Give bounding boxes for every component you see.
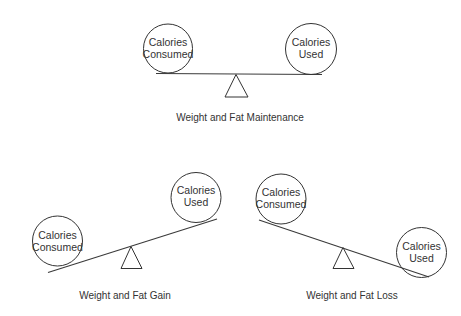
weight-label-line1: Calories — [402, 240, 441, 252]
weight-calories-consumed: Calories Consumed — [32, 216, 83, 266]
weight-calories-consumed: Calories Consumed — [143, 24, 194, 73]
scale-gain: Calories Consumed Calories Used Weight a… — [32, 173, 221, 302]
weight-label-line2: Used — [409, 252, 434, 264]
beam-maintenance — [156, 74, 322, 75]
weight-label-line2: Consumed — [32, 241, 83, 253]
caption-loss: Weight and Fat Loss — [306, 290, 398, 301]
energy-balance-diagram: Calories Consumed Calories Used Weight a… — [0, 0, 461, 316]
weight-calories-used: Calories Used — [397, 228, 447, 278]
weight-calories-used: Calories Used — [286, 24, 337, 75]
weight-label-line2: Used — [184, 196, 209, 208]
scale-loss: Calories Consumed Calories Used Weight a… — [256, 174, 447, 301]
weight-label-line2: Consumed — [143, 48, 194, 60]
weight-calories-used: Calories Used — [171, 173, 221, 223]
weight-calories-consumed: Calories Consumed — [256, 174, 307, 224]
weight-label-line1: Calories — [292, 36, 331, 48]
scale-maintenance: Calories Consumed Calories Used Weight a… — [143, 24, 337, 124]
caption-gain: Weight and Fat Gain — [79, 290, 171, 301]
weight-label-line1: Calories — [262, 186, 301, 198]
weight-label-line1: Calories — [177, 184, 216, 196]
weight-label-line2: Consumed — [256, 198, 307, 210]
caption-maintenance: Weight and Fat Maintenance — [176, 112, 304, 123]
fulcrum-icon — [225, 75, 248, 98]
weight-label-line2: Used — [299, 48, 324, 60]
weight-label-line1: Calories — [149, 36, 188, 48]
fulcrum-icon — [121, 247, 142, 269]
weight-label-line1: Calories — [38, 229, 77, 241]
